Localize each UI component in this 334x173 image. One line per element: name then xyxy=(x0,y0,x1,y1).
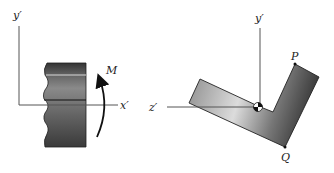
point-q-label: Q xyxy=(281,151,290,164)
point-q-marker xyxy=(284,146,287,149)
moment-label: M xyxy=(105,64,118,77)
moment-arrow-icon xyxy=(97,80,104,137)
right-figure: y′ z′ P Q xyxy=(148,12,319,164)
y-axis-label-right: y′ xyxy=(254,12,264,25)
left-figure: y′ x′ M xyxy=(12,9,129,147)
y-axis-label-left: y′ xyxy=(12,9,22,22)
beam-diagram: y′ x′ M y′ z′ P Q xyxy=(0,0,334,173)
centroid-icon xyxy=(254,103,263,112)
z-axis-label: z′ xyxy=(148,101,158,114)
x-axis-label-left: x′ xyxy=(120,99,129,112)
point-p-label: P xyxy=(290,50,299,63)
